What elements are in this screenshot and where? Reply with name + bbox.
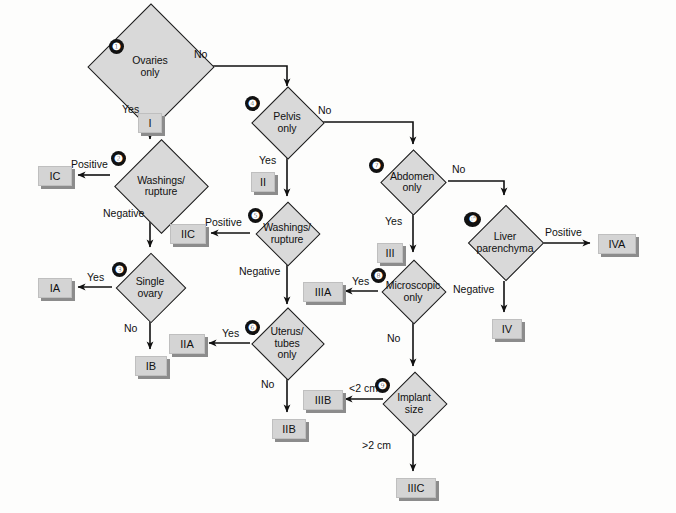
- edge-label-yes-1: Yes: [122, 103, 139, 115]
- node-number-badge-9: ❾: [375, 378, 390, 393]
- decision-node-pelvis-only[interactable]: Pelvis only: [262, 97, 312, 147]
- stage-box-IVA[interactable]: IVA: [598, 234, 636, 254]
- stage-box-II[interactable]: II: [251, 172, 275, 192]
- stage-box-III[interactable]: III: [377, 243, 403, 263]
- node-number-badge-4: ❹: [245, 96, 260, 111]
- node-number-badge-8: ❽: [371, 268, 386, 283]
- edge-label-yes-4: Yes: [259, 154, 276, 166]
- node-number-badge-7: ❼: [369, 158, 384, 173]
- edge-label-no-8: No: [387, 332, 400, 344]
- edge-label-gt2cm-9: >2 cm: [362, 439, 391, 451]
- edge-label-no-1: No: [194, 48, 207, 60]
- stage-box-IIIC[interactable]: IIIC: [396, 478, 436, 498]
- node-number-badge-5: ❺: [248, 208, 263, 223]
- node-number-badge-1: ❶: [109, 39, 124, 54]
- edge-label-negative-5: Negative: [239, 265, 280, 277]
- edge-label-lt2cm-9: <2 cm: [349, 382, 378, 394]
- decision-node-single-ovary[interactable]: Single ovary: [126, 263, 174, 311]
- stage-box-IA[interactable]: IA: [38, 278, 72, 298]
- edge-label-positive-2: Positive: [71, 158, 108, 170]
- stage-box-IIIA[interactable]: IIIA: [303, 282, 343, 302]
- node-number-badge-10: ❿: [464, 212, 481, 227]
- decision-node-washings-rupture-2[interactable]: Washings/ rupture: [265, 211, 309, 255]
- edge-label-no-7: No: [452, 163, 465, 175]
- decision-node-implant-size[interactable]: Implant size: [392, 381, 436, 425]
- edge-label-yes-3: Yes: [87, 271, 104, 283]
- decision-node-liver-parenchyma[interactable]: Liver parenchyma: [479, 216, 531, 268]
- decision-node-uterus-tubes-only[interactable]: Uterus/ tubes only: [262, 318, 312, 368]
- node-number-badge-2: ❷: [111, 151, 126, 166]
- decision-node-ovaries-only[interactable]: Ovaries only: [106, 22, 194, 110]
- stage-box-IIA[interactable]: IIA: [169, 334, 205, 354]
- edge-label-positive-10: Positive: [545, 226, 582, 238]
- stage-box-IIB[interactable]: IIB: [272, 419, 306, 439]
- edge-label-positive-5: Positive: [205, 216, 242, 228]
- decision-node-microscopic-only[interactable]: Microscopic only: [391, 269, 435, 313]
- stage-box-IB[interactable]: IB: [135, 356, 167, 376]
- stage-box-IV[interactable]: IV: [492, 319, 522, 339]
- edge-label-no-3: No: [124, 322, 137, 334]
- edge-label-no-6: No: [261, 378, 274, 390]
- edge-label-yes-7: Yes: [385, 215, 402, 227]
- stage-box-IC[interactable]: IC: [38, 166, 72, 186]
- edge-label-negative-10: Negative: [453, 283, 494, 295]
- stage-box-IIC[interactable]: IIC: [170, 224, 206, 244]
- edge-label-yes-6: Yes: [222, 327, 239, 339]
- node-number-badge-3: ❸: [112, 262, 127, 277]
- flowchart-canvas: Ovaries only ❶ Washings/ rupture ❷ Singl…: [0, 0, 676, 513]
- stage-box-IIIB[interactable]: IIIB: [303, 390, 343, 410]
- edge-label-negative-2: Negative: [103, 207, 144, 219]
- node-number-badge-6: ❻: [245, 320, 260, 335]
- decision-node-abdomen-only[interactable]: Abdomen only: [390, 159, 435, 204]
- edge-label-no-4: No: [318, 104, 331, 116]
- edge-label-yes-8: Yes: [352, 275, 369, 287]
- stage-box-I[interactable]: I: [138, 113, 162, 133]
